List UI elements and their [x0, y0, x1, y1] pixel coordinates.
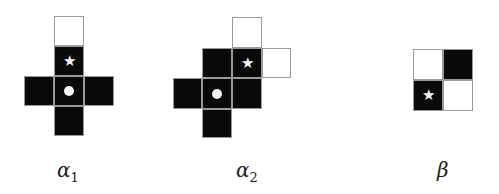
white-cell — [443, 80, 473, 111]
black-cell — [202, 78, 232, 109]
black-cell — [173, 78, 202, 109]
white-cell — [262, 48, 291, 78]
dot-icon — [203, 79, 231, 108]
dot-icon — [55, 77, 83, 105]
label-alpha1: α1 — [57, 158, 79, 185]
white-cell — [54, 16, 84, 46]
white-cell — [413, 49, 443, 80]
black-cell — [54, 106, 84, 136]
black-cell: ★ — [54, 46, 84, 76]
black-cell — [232, 78, 262, 109]
black-cell — [54, 76, 84, 106]
white-cell — [232, 17, 262, 48]
black-cell: ★ — [413, 80, 443, 111]
black-cell — [443, 49, 473, 80]
star-icon: ★ — [55, 47, 83, 75]
label-beta: β — [437, 158, 449, 182]
star-icon: ★ — [233, 49, 261, 77]
label-alpha2: α2 — [236, 158, 258, 185]
black-cell — [202, 109, 232, 138]
star-icon: ★ — [414, 81, 442, 110]
black-cell — [24, 76, 54, 106]
black-cell — [84, 76, 114, 106]
black-cell: ★ — [232, 48, 262, 78]
black-cell — [202, 48, 232, 78]
